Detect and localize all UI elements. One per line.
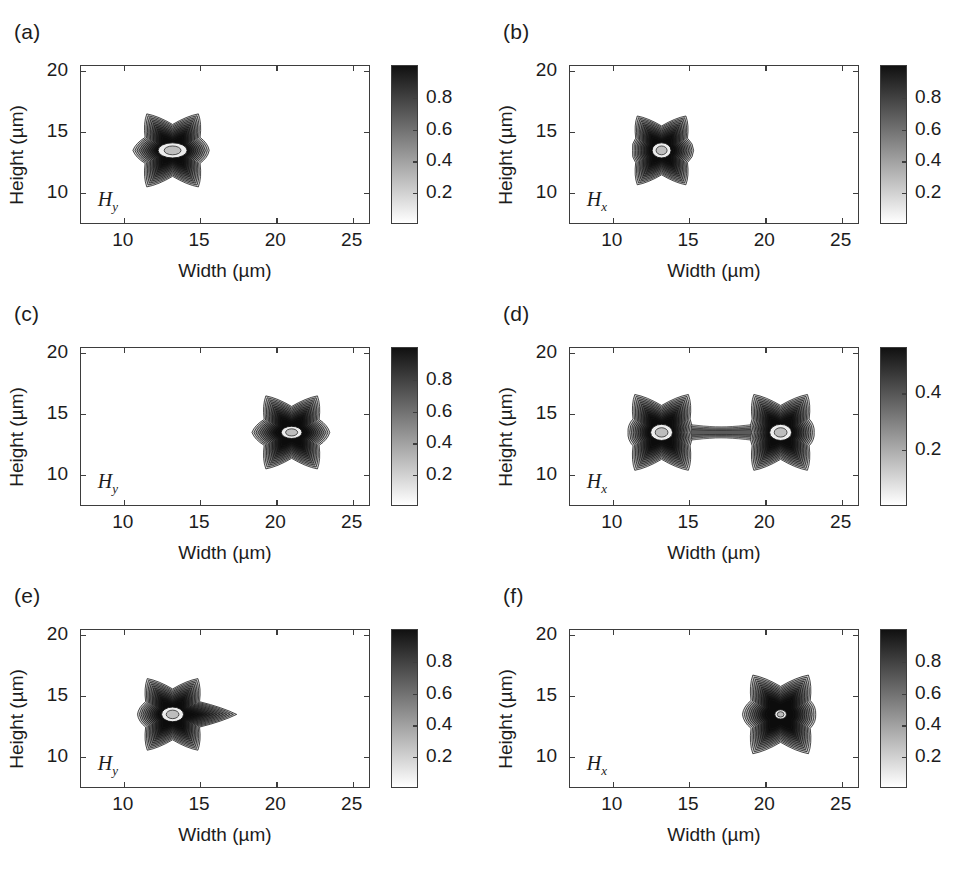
y-tick-label: 20 — [536, 59, 557, 81]
x-tick-label: 15 — [188, 511, 209, 533]
colorbar-tick-label: 0.4 — [915, 713, 941, 735]
y-tick-right — [853, 635, 858, 636]
x-tick-label: 25 — [341, 511, 362, 533]
y-tick-label: 20 — [536, 623, 557, 645]
y-tick — [570, 414, 575, 415]
x-tick-label: 10 — [112, 229, 133, 251]
colorbar-b — [880, 65, 907, 224]
x-tick — [613, 500, 614, 505]
colorbar-tick — [902, 393, 906, 394]
x-tick-label: 25 — [830, 229, 851, 251]
y-tick — [81, 132, 86, 133]
y-tick-label: 15 — [47, 120, 68, 142]
x-tick-top — [842, 66, 843, 71]
field-subscript: y — [112, 199, 118, 214]
colorbar-tick-label: 0.6 — [915, 682, 941, 704]
x-tick — [276, 218, 277, 223]
x-tick-top — [353, 66, 354, 71]
y-tick-label: 10 — [47, 745, 68, 767]
y-tick — [570, 132, 575, 133]
panel-c: (c)Hy10152025101520Width (µm)Height (µm)… — [0, 296, 489, 592]
x-tick — [276, 782, 277, 787]
colorbar-tick — [413, 98, 417, 99]
colorbar-tick-label: 0.2 — [426, 463, 452, 485]
x-tick-top — [765, 66, 766, 71]
colorbar-tick — [902, 757, 906, 758]
y-tick-right — [853, 132, 858, 133]
x-tick-label: 15 — [188, 793, 209, 815]
colorbar-f — [880, 629, 907, 788]
y-tick-right — [853, 193, 858, 194]
y-tick-right — [853, 696, 858, 697]
x-tick-top — [689, 630, 690, 635]
x-tick-top — [613, 630, 614, 635]
x-tick — [689, 782, 690, 787]
x-tick-top — [689, 66, 690, 71]
y-tick-label: 20 — [47, 341, 68, 363]
colorbar-tick-label: 0.8 — [426, 368, 452, 390]
colorbar-tick-label: 0.8 — [915, 650, 941, 672]
x-tick — [689, 500, 690, 505]
y-tick — [570, 71, 575, 72]
colorbar-tick — [413, 193, 417, 194]
mode-field-contours — [81, 630, 370, 788]
y-tick — [570, 353, 575, 354]
x-axis-title: Width (µm) — [80, 824, 370, 846]
x-tick-label: 25 — [341, 229, 362, 251]
x-axis-title: Width (µm) — [569, 260, 859, 282]
x-tick-top — [276, 66, 277, 71]
colorbar-tick — [902, 161, 906, 162]
panel-label-e: (e) — [14, 584, 41, 608]
x-tick-top — [124, 66, 125, 71]
colorbar-tick — [902, 694, 906, 695]
x-tick-top — [353, 630, 354, 635]
x-tick-top — [689, 348, 690, 353]
x-tick — [689, 218, 690, 223]
x-tick — [842, 500, 843, 505]
x-tick — [353, 782, 354, 787]
colorbar-tick-label: 0.2 — [426, 181, 452, 203]
x-tick-top — [765, 630, 766, 635]
field-symbol: H — [98, 188, 112, 210]
y-tick-label: 10 — [536, 745, 557, 767]
x-tick — [200, 782, 201, 787]
panel-a: (a)Hy10152025101520Width (µm)Height (µm)… — [0, 14, 489, 310]
x-tick-top — [200, 630, 201, 635]
colorbar-tick — [413, 443, 417, 444]
mode-field-contours — [570, 348, 859, 506]
x-tick-label: 20 — [265, 229, 286, 251]
x-tick-top — [765, 348, 766, 353]
y-tick-right — [364, 757, 369, 758]
colorbar-tick — [413, 412, 417, 413]
x-tick — [353, 218, 354, 223]
y-axis-title: Height (µm) — [6, 70, 28, 240]
x-tick — [842, 218, 843, 223]
y-tick — [570, 635, 575, 636]
colorbar-tick — [413, 130, 417, 131]
y-tick-right — [364, 696, 369, 697]
panel-label-a: (a) — [14, 20, 41, 44]
y-tick-right — [853, 353, 858, 354]
y-tick — [570, 475, 575, 476]
plot-area-f: Hx — [569, 629, 859, 788]
colorbar-tick-label: 0.2 — [915, 745, 941, 767]
field-symbol: H — [587, 188, 601, 210]
x-tick-top — [842, 348, 843, 353]
panel-e: (e)Hy10152025101520Width (µm)Height (µm)… — [0, 578, 489, 874]
colorbar-tick-label: 0.2 — [915, 438, 941, 460]
x-tick-top — [276, 348, 277, 353]
x-tick-top — [613, 348, 614, 353]
y-tick-right — [853, 71, 858, 72]
field-component-label-c: Hy — [98, 470, 118, 497]
colorbar-tick — [902, 450, 906, 451]
x-tick — [200, 218, 201, 223]
panel-b: (b)Hx10152025101520Width (µm)Height (µm)… — [489, 14, 978, 310]
colorbar-tick-label: 0.6 — [915, 118, 941, 140]
field-subscript: x — [601, 481, 607, 496]
x-tick-label: 10 — [601, 793, 622, 815]
x-tick — [200, 500, 201, 505]
field-component-label-f: Hx — [587, 752, 607, 779]
y-tick-right — [853, 757, 858, 758]
y-tick — [570, 757, 575, 758]
panel-label-b: (b) — [503, 20, 530, 44]
